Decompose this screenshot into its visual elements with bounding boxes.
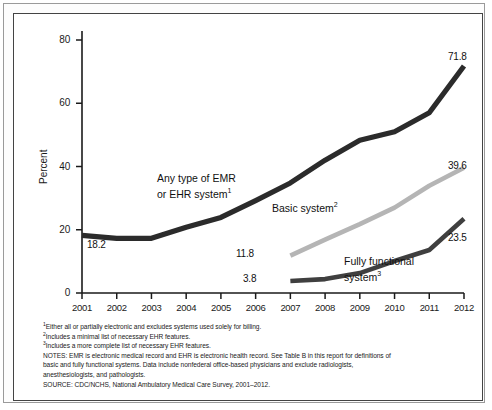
y-tick-label: 80 bbox=[44, 34, 70, 45]
x-tick-label: 2003 bbox=[134, 302, 168, 313]
footnote-3-text: Includes a more complete list of necessa… bbox=[46, 342, 211, 349]
value-label-fully-start: 3.8 bbox=[243, 273, 256, 284]
series-label-fully-line2: system bbox=[344, 270, 377, 282]
figure-notes: 1Either all or partially electronic and … bbox=[43, 322, 475, 389]
source-line: SOURCE: CDC/NCHS, National Ambulatory Me… bbox=[43, 380, 475, 390]
y-tick-label: 0 bbox=[44, 287, 70, 298]
x-tick-label: 2001 bbox=[65, 302, 99, 313]
x-tick-label: 2006 bbox=[239, 302, 273, 313]
footnote-3: 3Includes a more complete list of necess… bbox=[43, 341, 475, 351]
x-axis-ticks bbox=[82, 293, 464, 299]
x-tick-label: 2002 bbox=[100, 302, 134, 313]
series-label-any-emr-line1: Any type of EMR bbox=[157, 172, 236, 184]
value-label-basic-start: 11.8 bbox=[236, 248, 254, 259]
figure-outer-border: 020406080 200120022003200420052006200720… bbox=[3, 3, 485, 403]
x-tick-label: 2005 bbox=[204, 302, 238, 313]
chart-axes bbox=[82, 31, 464, 293]
notes-line-3: anesthesiologists, and pathologists. bbox=[43, 370, 475, 380]
series-label-any-emr: Any type of EMR or EHR system1 bbox=[157, 172, 236, 200]
y-axis-title: Percent bbox=[38, 150, 49, 184]
value-label-any-emr-start: 18.2 bbox=[87, 239, 106, 250]
y-axis-ticks bbox=[76, 40, 82, 293]
value-label-basic-end: 39.6 bbox=[448, 160, 467, 171]
x-tick-label: 2012 bbox=[447, 302, 481, 313]
value-label-fully-end: 23.5 bbox=[448, 232, 467, 243]
footnote-1-text: Either all or partially electronic and e… bbox=[46, 323, 262, 330]
footnote-2: 2Includes a minimal list of necessary EH… bbox=[43, 332, 475, 342]
x-tick-label: 2004 bbox=[169, 302, 203, 313]
series-label-any-emr-line2: or EHR system bbox=[157, 187, 228, 199]
footnote-2-text: Includes a minimal list of necessary EHR… bbox=[46, 333, 190, 340]
figure-inner-border: 020406080 200120022003200420052006200720… bbox=[13, 13, 483, 401]
series-label-fully-functional: Fully functional system3 bbox=[344, 255, 414, 283]
x-tick-label: 2008 bbox=[308, 302, 342, 313]
series-label-basic-superscript: 2 bbox=[334, 201, 338, 208]
series-label-fully-line1: Fully functional bbox=[344, 255, 414, 267]
series-label-basic-text: Basic system bbox=[272, 202, 334, 214]
x-tick-label: 2010 bbox=[378, 302, 412, 313]
series-label-basic: Basic system2 bbox=[272, 199, 338, 214]
y-tick-label: 60 bbox=[44, 97, 70, 108]
value-label-any-emr-end: 71.8 bbox=[448, 51, 467, 62]
notes-line-1: NOTES: EMR is electronic medical record … bbox=[43, 351, 475, 361]
notes-line-2: basic and fully functional systems. Data… bbox=[43, 360, 475, 370]
x-tick-label: 2007 bbox=[273, 302, 307, 313]
footnote-1: 1Either all or partially electronic and … bbox=[43, 322, 475, 332]
chart-series-layer bbox=[82, 66, 464, 281]
series-label-fully-superscript: 3 bbox=[377, 270, 381, 277]
series-label-any-emr-superscript: 1 bbox=[228, 187, 232, 194]
y-tick-label: 20 bbox=[44, 224, 70, 235]
x-tick-label: 2009 bbox=[343, 302, 377, 313]
x-tick-label: 2011 bbox=[412, 302, 446, 313]
